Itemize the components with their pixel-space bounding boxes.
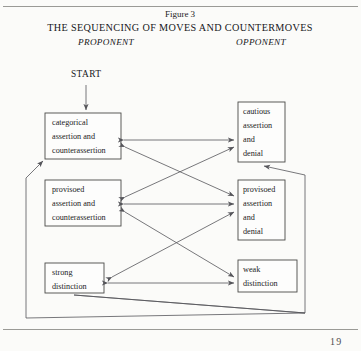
node-strong-distinction-line-2: distinction (52, 282, 87, 291)
node-provisoed-opponent-line-3: and (243, 213, 255, 222)
node-provisoed-opponent-line-2: assertion (243, 199, 272, 208)
node-cautious-line-1: cautious (243, 107, 270, 116)
node-weak-distinction-line-2: distinction (243, 279, 278, 288)
edge-provisoed-opponent-strong (112, 212, 234, 277)
column-label-opponent: OPPONENT (236, 37, 286, 47)
node-provisoed-opponent-line-1: provisoed (243, 185, 275, 194)
page-number: 19 (330, 336, 342, 347)
figure-title: THE SEQUENCING OF MOVES AND COUNTERMOVES (47, 22, 313, 33)
node-provisoed-proponent-line-3: counterassertion (52, 213, 106, 222)
node-provisoed-proponent-line-2: assertion and (52, 199, 95, 208)
figure-page: Figure 3 THE SEQUENCING OF MOVES AND COU… (0, 0, 361, 351)
edge-provisoed-proponent-weak (125, 212, 234, 277)
node-cautious-line-3: and (243, 135, 255, 144)
figure-label: Figure 3 (165, 9, 196, 19)
node-categorical-line-3: counterassertion (52, 146, 106, 155)
node-provisoed-opponent-line-4: denial (243, 227, 264, 236)
node-categorical-line-2: assertion and (52, 132, 95, 141)
node-categorical-line-1: categorical (52, 118, 89, 127)
sequencing-diagram: Figure 3 THE SEQUENCING OF MOVES AND COU… (0, 0, 361, 351)
node-cautious-line-4: denial (243, 149, 264, 158)
node-weak-distinction-line-1: weak (243, 265, 261, 274)
node-strong-distinction-line-1: strong (52, 268, 72, 277)
node-cautious-line-2: assertion (243, 121, 272, 130)
column-label-proponent: PROPONENT (77, 37, 134, 47)
start-label: START (71, 69, 101, 79)
node-provisoed-proponent-line-1: provisoed (52, 185, 84, 194)
